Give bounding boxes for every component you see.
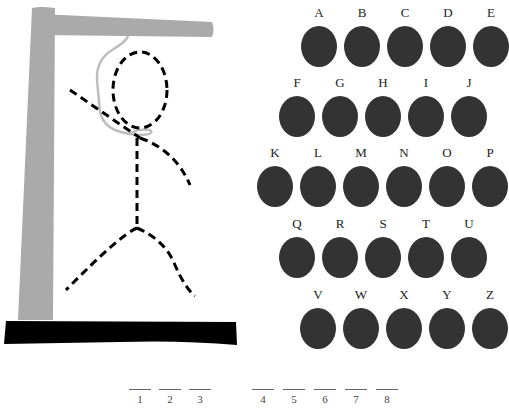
slot-underline bbox=[159, 389, 181, 390]
letter-button-l[interactable]: L bbox=[300, 144, 336, 207]
letter-disc[interactable] bbox=[279, 237, 315, 278]
letter-label: S bbox=[365, 215, 401, 233]
slot-underline bbox=[129, 389, 151, 390]
letter-disc[interactable] bbox=[451, 96, 487, 137]
letter-button-y[interactable]: Y bbox=[429, 286, 465, 349]
letter-label: N bbox=[386, 144, 422, 162]
letter-button-b[interactable]: B bbox=[344, 4, 380, 67]
letter-slot: 3 bbox=[189, 389, 211, 405]
letter-disc[interactable] bbox=[386, 308, 422, 349]
letter-slot: 5 bbox=[283, 389, 305, 405]
letter-button-j[interactable]: J bbox=[451, 74, 487, 137]
letter-disc[interactable] bbox=[429, 308, 465, 349]
letter-disc[interactable] bbox=[343, 166, 379, 207]
slot-number: 1 bbox=[129, 393, 151, 405]
letter-label: A bbox=[301, 4, 337, 22]
letter-disc[interactable] bbox=[322, 237, 358, 278]
letter-label: Z bbox=[472, 286, 508, 304]
letter-disc[interactable] bbox=[365, 237, 401, 278]
letter-disc[interactable] bbox=[472, 166, 508, 207]
gallows-post bbox=[18, 7, 55, 320]
letter-button-z[interactable]: Z bbox=[472, 286, 508, 349]
letter-button-w[interactable]: W bbox=[343, 286, 379, 349]
letter-button-a[interactable]: A bbox=[301, 4, 337, 67]
letter-disc[interactable] bbox=[300, 166, 336, 207]
right-leg bbox=[137, 228, 195, 296]
letter-button-e[interactable]: E bbox=[473, 4, 509, 67]
letter-button-m[interactable]: M bbox=[343, 144, 379, 207]
slot-number: 3 bbox=[189, 393, 211, 405]
head bbox=[113, 52, 167, 128]
letter-disc[interactable] bbox=[257, 166, 293, 207]
slot-underline bbox=[376, 389, 398, 390]
letter-button-r[interactable]: R bbox=[322, 215, 358, 278]
left-leg bbox=[66, 228, 137, 290]
slot-underline bbox=[283, 389, 305, 390]
letter-disc[interactable] bbox=[430, 26, 466, 67]
letter-disc[interactable] bbox=[301, 26, 337, 67]
slot-number: 7 bbox=[345, 393, 367, 405]
letter-label: V bbox=[300, 286, 336, 304]
letter-button-u[interactable]: U bbox=[451, 215, 487, 278]
letter-slot: 6 bbox=[314, 389, 336, 405]
letter-button-h[interactable]: H bbox=[365, 74, 401, 137]
letter-button-n[interactable]: N bbox=[386, 144, 422, 207]
letter-label: Q bbox=[279, 215, 315, 233]
letter-slot: 8 bbox=[376, 389, 398, 405]
letter-disc[interactable] bbox=[344, 26, 380, 67]
letter-button-i[interactable]: I bbox=[408, 74, 444, 137]
letter-button-k[interactable]: K bbox=[257, 144, 293, 207]
letter-label: M bbox=[343, 144, 379, 162]
letter-label: X bbox=[386, 286, 422, 304]
letter-disc[interactable] bbox=[300, 308, 336, 349]
letter-disc[interactable] bbox=[386, 166, 422, 207]
right-arm bbox=[140, 138, 190, 185]
letter-slot: 4 bbox=[252, 389, 274, 405]
letter-slot: 1 bbox=[129, 389, 151, 405]
letter-button-x[interactable]: X bbox=[386, 286, 422, 349]
letter-label: D bbox=[430, 4, 466, 22]
letter-disc[interactable] bbox=[473, 26, 509, 67]
letter-button-t[interactable]: T bbox=[408, 215, 444, 278]
left-arm bbox=[70, 90, 140, 138]
letter-disc[interactable] bbox=[322, 96, 358, 137]
letter-disc[interactable] bbox=[408, 96, 444, 137]
letter-button-o[interactable]: O bbox=[429, 144, 465, 207]
letter-label: J bbox=[451, 74, 487, 92]
slot-underline bbox=[189, 389, 211, 390]
letter-disc[interactable] bbox=[408, 237, 444, 278]
letter-disc[interactable] bbox=[279, 96, 315, 137]
letter-label: G bbox=[322, 74, 358, 92]
letter-slot: 2 bbox=[159, 389, 181, 405]
letter-disc[interactable] bbox=[387, 26, 423, 67]
letter-disc[interactable] bbox=[365, 96, 401, 137]
stick-figure bbox=[66, 52, 195, 296]
letter-label: W bbox=[343, 286, 379, 304]
slot-number: 4 bbox=[252, 393, 274, 405]
letter-button-d[interactable]: D bbox=[430, 4, 466, 67]
slot-number: 6 bbox=[314, 393, 336, 405]
slot-number: 2 bbox=[159, 393, 181, 405]
slot-number: 8 bbox=[376, 393, 398, 405]
letter-label: K bbox=[257, 144, 293, 162]
letter-button-q[interactable]: Q bbox=[279, 215, 315, 278]
letter-label: P bbox=[472, 144, 508, 162]
letter-button-f[interactable]: F bbox=[279, 74, 315, 137]
letter-button-p[interactable]: P bbox=[472, 144, 508, 207]
letter-button-s[interactable]: S bbox=[365, 215, 401, 278]
slot-underline bbox=[345, 389, 367, 390]
letter-button-g[interactable]: G bbox=[322, 74, 358, 137]
letter-label: U bbox=[451, 215, 487, 233]
letter-disc[interactable] bbox=[472, 308, 508, 349]
letter-label: R bbox=[322, 215, 358, 233]
letter-button-v[interactable]: V bbox=[300, 286, 336, 349]
letter-disc[interactable] bbox=[343, 308, 379, 349]
letter-disc[interactable] bbox=[429, 166, 465, 207]
letter-label: C bbox=[387, 4, 423, 22]
gallows-base bbox=[4, 321, 237, 345]
letter-disc[interactable] bbox=[451, 237, 487, 278]
letter-label: T bbox=[408, 215, 444, 233]
letter-label: F bbox=[279, 74, 315, 92]
letter-button-c[interactable]: C bbox=[387, 4, 423, 67]
letter-label: O bbox=[429, 144, 465, 162]
